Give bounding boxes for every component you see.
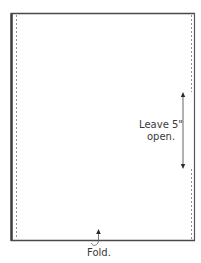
- opening-label-line2: open.: [134, 131, 188, 143]
- fold-arrow-icon: [92, 229, 101, 245]
- fold-label: Fold.: [74, 247, 124, 259]
- opening-label-line1: Leave 5": [134, 119, 188, 131]
